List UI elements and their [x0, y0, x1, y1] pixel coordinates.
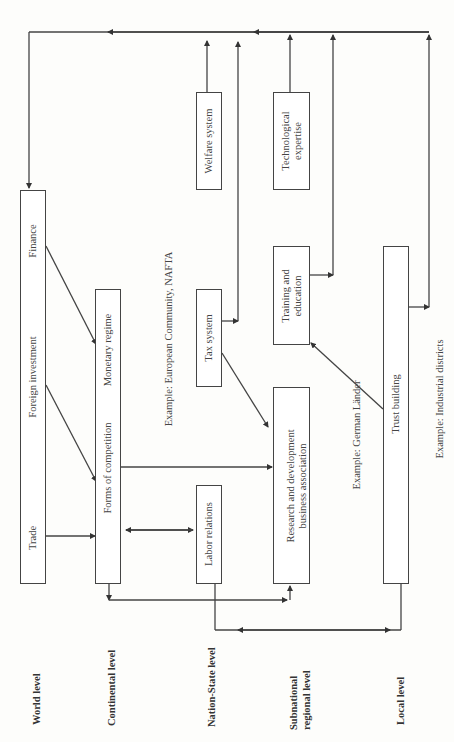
world-item-trade: Trade	[27, 508, 39, 568]
research-development-label-line1: Research and development	[285, 421, 297, 551]
welfare-system-label: Welfare system	[203, 96, 215, 186]
training-education-label-line2: education	[292, 256, 304, 336]
continental-item-forms-of-competition: Forms of competition	[102, 408, 114, 528]
level-label-nation-state: Nation-State level	[206, 617, 218, 727]
technological-expertise-label-line1: Technological	[280, 101, 292, 181]
example-subnational: Example: German Länder	[351, 375, 363, 495]
continental-item-monetary-regime: Monetary regime	[102, 300, 114, 400]
level-label-subnational-line2: regional level	[301, 650, 313, 730]
example-local: Example: Industrial districts	[434, 329, 446, 469]
technological-expertise-label-line2: expertise	[292, 101, 304, 181]
research-development-label-line2: business association	[297, 421, 309, 551]
world-item-foreign-investment: Foreign investment	[27, 327, 39, 427]
world-item-finance: Finance	[27, 211, 39, 271]
level-label-world: World level	[31, 655, 43, 725]
level-label-local: Local level	[395, 655, 407, 725]
level-label-subnational-line1: Subnational	[288, 650, 300, 730]
level-label-continental: Continental level	[106, 626, 118, 726]
example-continental: Example: European Community, NAFTA	[163, 239, 175, 439]
training-education-label-line1: Training and	[280, 256, 292, 336]
labor-relations-label: Labor relations	[203, 489, 215, 579]
trust-building-label: Trust building	[390, 364, 402, 444]
tax-system-label: Tax system	[203, 303, 215, 373]
